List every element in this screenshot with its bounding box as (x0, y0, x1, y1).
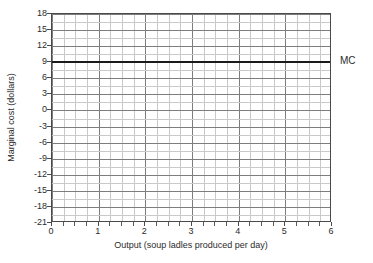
gridline-y-major (52, 127, 330, 128)
y-tick-label: 0 (42, 104, 47, 114)
gridline-y-minor (52, 183, 330, 184)
gridline-y-major (52, 46, 330, 47)
gridline-y-minor (52, 54, 330, 55)
x-tick-mark (74, 222, 75, 226)
y-tick-mark (47, 142, 51, 143)
y-tick-label: 6 (42, 72, 47, 82)
gridline-y-minor (52, 102, 330, 103)
y-tick-label: 9 (42, 56, 47, 66)
y-tick-label: 12 (37, 40, 47, 50)
gridline-y-major (52, 78, 330, 79)
y-axis-title: Marginal cost (dollars) (5, 13, 18, 222)
y-tick-label: -12 (34, 169, 47, 179)
plot-area (51, 13, 331, 222)
x-axis-title: Output (soup ladles produced per day) (51, 240, 331, 250)
y-tick-label: 3 (42, 88, 47, 98)
x-tick-label: 6 (321, 226, 341, 236)
y-tick-mark (47, 109, 51, 110)
gridline-y-minor (52, 199, 330, 200)
gridline-y-minor (52, 151, 330, 152)
mc-series-label: MC (340, 56, 356, 66)
x-tick-label: 4 (228, 226, 248, 236)
gridline-y-major (52, 191, 330, 192)
x-tick-label: 3 (181, 226, 201, 236)
y-tick-label: -3 (39, 121, 47, 131)
gridline-y-minor (52, 167, 330, 168)
x-tick-label: 0 (41, 226, 61, 236)
gridline-y-major (52, 175, 330, 176)
x-tick-mark (203, 222, 204, 226)
y-tick-mark (47, 190, 51, 191)
y-tick-mark (47, 45, 51, 46)
x-tick-label: 5 (274, 226, 294, 236)
gridline-y-major (52, 110, 330, 111)
x-tick-mark (214, 222, 215, 226)
x-tick-mark (296, 222, 297, 226)
y-tick-label: 18 (37, 8, 47, 18)
gridline-y-minor (52, 119, 330, 120)
gridline-y-minor (52, 22, 330, 23)
x-tick-label: 1 (88, 226, 108, 236)
x-tick-label: 2 (134, 226, 154, 236)
y-tick-mark (47, 206, 51, 207)
y-tick-mark (47, 29, 51, 30)
y-tick-mark (47, 77, 51, 78)
gridline-y-major (52, 14, 330, 15)
gridline-y-minor (52, 70, 330, 71)
gridline-y-minor (52, 86, 330, 87)
gridline-y-minor (52, 135, 330, 136)
mc-series-line (52, 61, 330, 63)
x-tick-mark (168, 222, 169, 226)
y-tick-mark (47, 158, 51, 159)
gridline-y-major (52, 207, 330, 208)
marginal-cost-chart: 1815129630-3-6-9-12-15-18-21 0123456 Mar… (0, 0, 373, 263)
y-tick-label: 15 (37, 24, 47, 34)
y-tick-mark (47, 61, 51, 62)
x-tick-mark (121, 222, 122, 226)
x-tick-mark (261, 222, 262, 226)
y-tick-mark (47, 174, 51, 175)
x-tick-mark (156, 222, 157, 226)
x-tick-mark (109, 222, 110, 226)
gridline-y-major (52, 159, 330, 160)
gridline-y-minor (52, 215, 330, 216)
y-tick-mark (47, 13, 51, 14)
gridline-y-minor (52, 38, 330, 39)
y-tick-mark (47, 93, 51, 94)
y-tick-label: -18 (34, 201, 47, 211)
y-tick-mark (47, 126, 51, 127)
y-tick-label: -6 (39, 137, 47, 147)
y-tick-label: -15 (34, 185, 47, 195)
x-tick-mark (63, 222, 64, 226)
y-tick-mark (47, 222, 51, 223)
gridline-y-major (52, 94, 330, 95)
x-tick-mark (308, 222, 309, 226)
x-tick-mark (249, 222, 250, 226)
gridline-y-major (52, 143, 330, 144)
gridline-y-major (52, 30, 330, 31)
y-tick-label: -9 (39, 153, 47, 163)
